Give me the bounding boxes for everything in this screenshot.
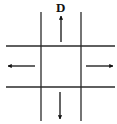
direction-label-d: D — [56, 0, 65, 15]
intersection-diagram: D — [0, 0, 117, 124]
arrows — [8, 16, 113, 119]
